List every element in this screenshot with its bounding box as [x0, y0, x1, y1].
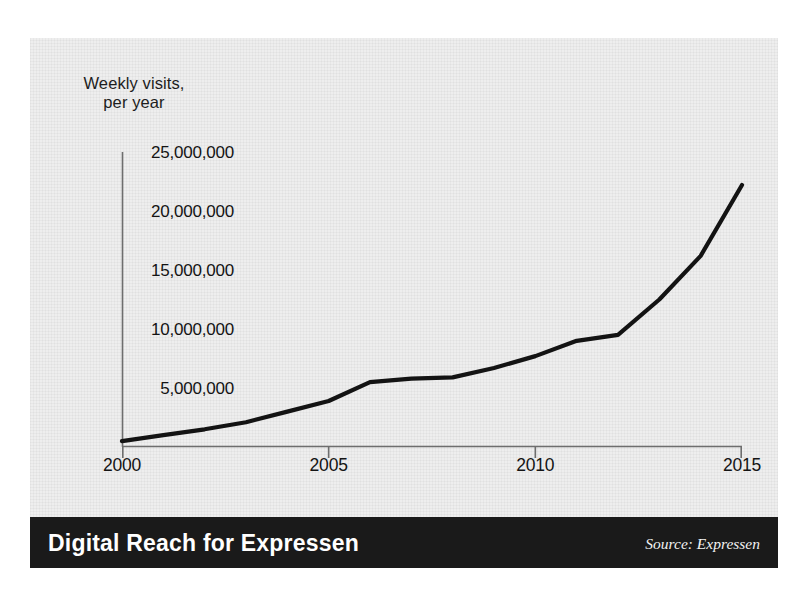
- x-tick-label: 2015: [687, 455, 797, 475]
- plot-area: 5,000,00010,000,00015,000,00020,000,0002…: [122, 152, 742, 447]
- y-tick-label: 15,000,000: [114, 262, 234, 279]
- y-tick-label: 20,000,000: [114, 203, 234, 220]
- x-tick-label: 2000: [67, 455, 177, 475]
- y-axis-tick-labels: 5,000,00010,000,00015,000,00020,000,0002…: [114, 152, 234, 447]
- footer-banner: Digital Reach for Expressen Source: Expr…: [30, 517, 778, 568]
- x-axis-tick-labels: 2000200520102015: [122, 455, 742, 481]
- chart-title: Digital Reach for Expressen: [48, 530, 359, 555]
- x-tick-label: 2005: [274, 455, 384, 475]
- x-tick-label: 2010: [480, 455, 590, 475]
- y-tick-label: 10,000,000: [114, 321, 234, 338]
- source-credit: Source: Expressen: [645, 534, 760, 551]
- y-axis-caption: Weekly visits, per year: [44, 74, 224, 112]
- y-tick-label: 5,000,000: [114, 380, 234, 397]
- y-tick-label: 25,000,000: [114, 144, 234, 161]
- chart-figure: Weekly visits, per year 5,000,00010,000,…: [0, 0, 809, 603]
